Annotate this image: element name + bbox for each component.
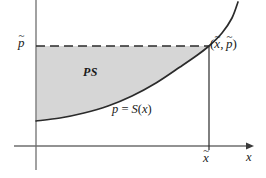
y-axis-tick-label-p-tilde: ~ p (18, 36, 25, 49)
curve-equals-sign: = (121, 102, 128, 116)
producer-surplus-figure: ~ p (~x, ~p) PS p = S(x) ~ x x (0, 0, 266, 178)
close-paren: ) (148, 102, 152, 116)
curve-lhs-symbol: p (112, 102, 118, 116)
x-axis-arrowhead-icon (246, 142, 254, 149)
tilde-accent-icon: ~ (203, 145, 209, 156)
tilde-accent-icon: ~ (227, 31, 233, 42)
producer-surplus-region-label: PS (83, 66, 98, 78)
x-axis-label: x (246, 151, 252, 164)
close-paren: ) (232, 36, 236, 51)
point-separator: , (220, 36, 223, 51)
x-axis-tick-label-x-tilde: ~ x (203, 151, 209, 164)
tilde-accent-icon: ~ (19, 30, 25, 41)
tilde-accent-icon: ~ (215, 31, 221, 42)
equilibrium-point-label: (~x, ~p) (210, 37, 237, 50)
figure-canvas (0, 0, 266, 178)
supply-curve-label: p = S(x) (112, 103, 152, 116)
